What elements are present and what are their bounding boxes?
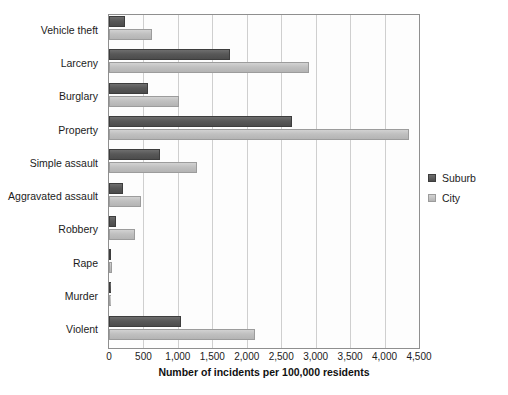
bar-chart: Vehicle theftLarcenyBurglaryPropertySimp… — [0, 0, 508, 395]
x-axis-title: Number of incidents per 100,000 resident… — [108, 366, 420, 378]
x-axis-tick-label: 2,500 — [269, 351, 294, 363]
bar-suburb — [109, 116, 292, 127]
x-axis-tick-label: 3,500 — [338, 351, 363, 363]
bar-suburb — [109, 249, 111, 260]
bar-suburb — [109, 49, 230, 60]
y-axis-label: Murder — [65, 291, 98, 302]
y-axis-label: Larceny — [61, 58, 98, 69]
bar-city — [109, 96, 179, 107]
bar-group — [109, 315, 419, 348]
bar-group — [109, 281, 419, 314]
bar-suburb — [109, 316, 181, 327]
y-axis-label: Rape — [73, 258, 98, 269]
city-swatch — [428, 194, 436, 202]
y-axis-labels: Vehicle theftLarcenyBurglaryPropertySimp… — [0, 14, 104, 349]
bar-group — [109, 48, 419, 81]
legend-label: Suburb — [442, 172, 476, 184]
y-axis-label: Robbery — [58, 224, 98, 235]
x-axis-tick-label: 4,500 — [406, 351, 431, 363]
plot-inner — [109, 15, 419, 348]
bar-group — [109, 15, 419, 48]
bar-suburb — [109, 83, 148, 94]
bar-group — [109, 115, 419, 148]
y-axis-label: Simple assault — [30, 158, 98, 169]
bar-group — [109, 148, 419, 181]
bar-city — [109, 29, 152, 40]
x-axis-tick-label: 2,000 — [234, 351, 259, 363]
bar-city — [109, 196, 141, 207]
bar-city — [109, 129, 409, 140]
bar-suburb — [109, 216, 116, 227]
suburb-swatch — [428, 174, 436, 182]
y-axis-label: Aggravated assault — [8, 191, 98, 202]
bar-group — [109, 215, 419, 248]
x-axis-ticks: 05001,0001,5002,0002,5003,0003,5004,0004… — [108, 351, 420, 365]
x-axis-tick-label: 3,000 — [303, 351, 328, 363]
legend-label: City — [442, 192, 460, 204]
x-axis-tick-label: 500 — [135, 351, 152, 363]
x-axis-tick-label: 4,000 — [372, 351, 397, 363]
chart-legend: SuburbCity — [428, 170, 476, 210]
legend-item-city[interactable]: City — [428, 190, 476, 205]
bar-group — [109, 82, 419, 115]
bar-city — [109, 329, 255, 340]
bar-suburb — [109, 282, 111, 293]
bar-group — [109, 248, 419, 281]
bar-suburb — [109, 183, 123, 194]
bar-city — [109, 262, 112, 273]
x-axis-tick-label: 0 — [106, 351, 112, 363]
bar-city — [109, 295, 111, 306]
bar-suburb — [109, 16, 125, 27]
legend-item-suburb[interactable]: Suburb — [428, 170, 476, 185]
bar-city — [109, 162, 197, 173]
bar-group — [109, 182, 419, 215]
x-axis-tick-label: 1,500 — [200, 351, 225, 363]
y-axis-label: Property — [58, 125, 98, 136]
y-axis-label: Vehicle theft — [41, 25, 98, 36]
y-axis-label: Violent — [66, 324, 98, 335]
x-axis-tick-label: 1,000 — [165, 351, 190, 363]
bar-city — [109, 62, 309, 73]
bar-suburb — [109, 149, 160, 160]
bar-city — [109, 229, 135, 240]
y-axis-label: Burglary — [59, 91, 98, 102]
plot-area — [108, 14, 420, 349]
